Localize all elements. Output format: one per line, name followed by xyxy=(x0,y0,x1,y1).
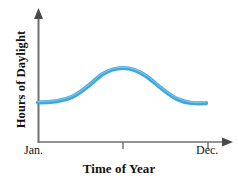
y-axis-title: Hours of Daylight xyxy=(14,21,29,139)
x-axis-tick-label-dec: Dec. xyxy=(196,143,218,158)
daylight-hours-curve-highlight xyxy=(38,67,206,102)
daylight-hours-chart-figure: Hours of Daylight Time of Year Jan. Dec. xyxy=(0,0,238,185)
x-axis-arrowhead-icon xyxy=(222,138,233,147)
x-axis-title: Time of Year xyxy=(0,161,238,177)
x-axis-tick-label-jan: Jan. xyxy=(24,143,43,158)
y-axis-arrowhead-icon xyxy=(34,8,43,19)
daylight-hours-curve xyxy=(38,68,206,103)
